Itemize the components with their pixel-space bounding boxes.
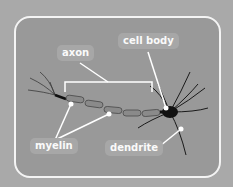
axon-leader xyxy=(80,63,108,82)
axon-terminal-icon xyxy=(28,72,55,95)
label-cell-body: cell body xyxy=(118,33,179,49)
axon-end xyxy=(55,95,66,99)
myelin-sheath-icon xyxy=(66,95,161,117)
axon-bracket xyxy=(65,82,152,92)
neuron-illustration xyxy=(0,0,233,187)
cell-body-leader xyxy=(148,52,166,108)
label-myelin: myelin xyxy=(30,138,78,154)
label-axon: axon xyxy=(57,45,94,61)
myelin-leader-1 xyxy=(55,104,71,140)
dendrite-leader xyxy=(160,129,181,146)
myelin-leader-2 xyxy=(55,114,109,140)
label-dendrite: dendrite xyxy=(105,140,163,156)
